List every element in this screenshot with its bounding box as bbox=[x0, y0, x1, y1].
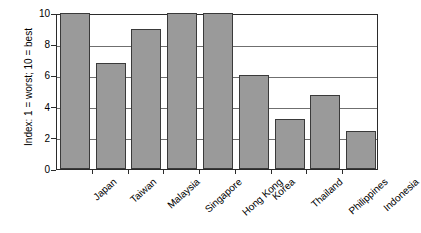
y-tick-label: 6 bbox=[16, 71, 50, 81]
x-label-text: Thailand bbox=[308, 176, 344, 210]
bar bbox=[346, 131, 376, 169]
bar bbox=[60, 13, 90, 169]
x-tick-mark bbox=[271, 170, 272, 174]
y-tick-label-wrap: 8 bbox=[10, 40, 50, 50]
x-label-text: Singapore bbox=[203, 176, 244, 215]
x-axis-label: Taiwan bbox=[128, 176, 159, 205]
x-label-text: Taiwan bbox=[128, 176, 159, 205]
x-axis-label: Singapore bbox=[203, 176, 244, 215]
y-tick-label: 10 bbox=[16, 9, 50, 19]
bar bbox=[239, 75, 269, 169]
bar bbox=[203, 13, 233, 169]
y-tick-label-wrap: 6 bbox=[10, 71, 50, 81]
x-label-text: Japan bbox=[91, 176, 119, 202]
bar bbox=[275, 119, 305, 169]
x-axis-label: Malaysia bbox=[166, 176, 203, 211]
x-label-text: Philippines bbox=[347, 176, 390, 217]
x-tick-mark bbox=[306, 170, 307, 174]
y-tick-label: 2 bbox=[16, 134, 50, 144]
bar bbox=[310, 95, 340, 169]
plot-area bbox=[56, 14, 378, 170]
x-axis-label: Philippines bbox=[347, 176, 390, 217]
bar bbox=[96, 63, 126, 169]
bar bbox=[167, 13, 197, 169]
y-tick-label: 8 bbox=[16, 40, 50, 50]
y-tick-label-wrap: 0 bbox=[10, 165, 50, 175]
y-axis-title: Index: 1 = worst; 10 = best bbox=[22, 2, 36, 172]
x-tick-mark bbox=[92, 170, 93, 174]
x-axis-label: Thailand bbox=[308, 176, 344, 210]
y-tick-label-wrap: 2 bbox=[10, 134, 50, 144]
x-tick-mark bbox=[163, 170, 164, 174]
y-tick-label: 0 bbox=[16, 165, 50, 175]
y-tick-label-wrap: 10 bbox=[10, 9, 50, 19]
y-tick-label-wrap: 4 bbox=[10, 103, 50, 113]
x-label-text: Malaysia bbox=[166, 176, 203, 211]
x-axis-label: Japan bbox=[91, 176, 119, 202]
x-tick-mark bbox=[199, 170, 200, 174]
bars-layer bbox=[57, 15, 377, 169]
x-tick-mark bbox=[235, 170, 236, 174]
bar bbox=[131, 29, 161, 169]
x-tick-mark bbox=[342, 170, 343, 174]
x-tick-mark bbox=[128, 170, 129, 174]
y-tick-label: 4 bbox=[16, 103, 50, 113]
